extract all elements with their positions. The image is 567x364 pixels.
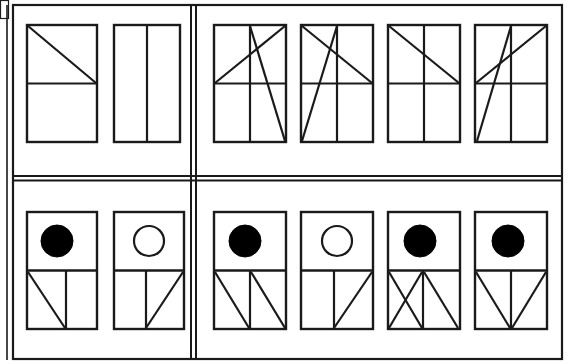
filled-circle-marker (41, 225, 73, 257)
cell-br-1 (214, 212, 286, 329)
filled-circle-marker (404, 225, 436, 257)
cell-tr-3 (388, 25, 460, 142)
filled-circle-marker (229, 225, 261, 257)
cell-bl-1 (27, 212, 97, 329)
cell-br-4 (475, 212, 547, 329)
cell-br-3 (388, 212, 460, 329)
cell-bl-2 (114, 212, 184, 329)
open-circle-marker (322, 226, 352, 256)
cell-tr-4 (475, 25, 547, 142)
cell-tr-1 (214, 25, 286, 142)
filled-circle-marker (492, 225, 524, 257)
cell-tl-1 (27, 25, 97, 142)
open-circle-marker (134, 226, 164, 256)
cell-tr-2 (301, 25, 373, 142)
cell-tl-2 (114, 25, 180, 142)
geometric-figure-diagram (0, 0, 567, 364)
figure-plate (0, 0, 567, 364)
cell-br-2 (301, 212, 373, 329)
